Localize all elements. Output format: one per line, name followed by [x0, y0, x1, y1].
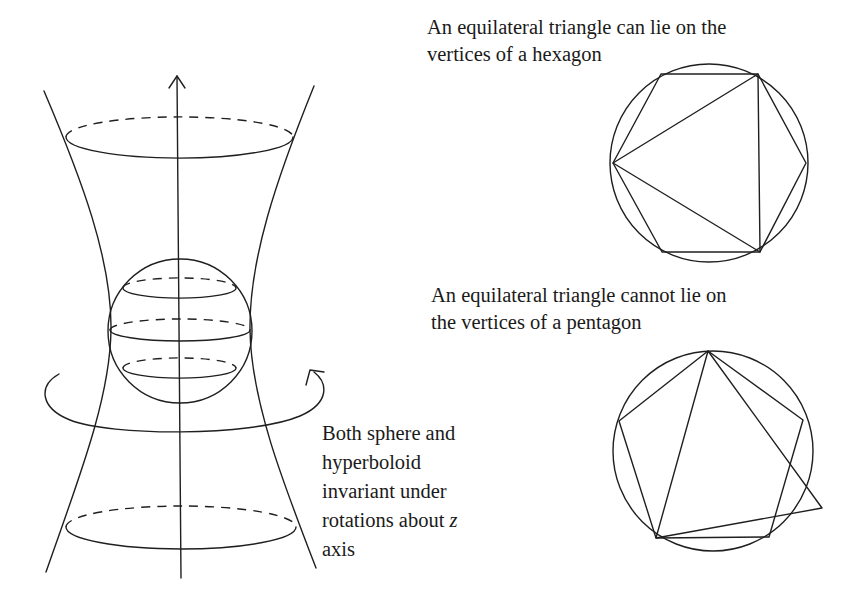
hyperboloid-caption: Both sphere and hyperboloid invariant un… — [322, 419, 458, 564]
z-axis-arrow-icon — [169, 76, 185, 578]
equilateral-triangle — [613, 74, 760, 252]
hexagon-figure — [610, 64, 808, 262]
caption-line: An equilateral triangle cannot lie on — [431, 282, 726, 309]
top-circle — [66, 117, 293, 158]
caption-line: the vertices of a pentagon — [431, 309, 726, 336]
circumcircle — [610, 64, 808, 262]
caption-line: hyperboloid — [322, 448, 458, 477]
circumcircle — [613, 351, 813, 551]
hyperboloid-left-profile — [44, 91, 111, 572]
hyperboloid-right-profile — [250, 86, 316, 568]
pentagon-figure — [613, 351, 822, 551]
equilateral-triangle — [656, 351, 822, 538]
caption-line: invariant under — [322, 477, 458, 506]
caption-line-with-variable: rotations about z — [322, 506, 458, 535]
caption-line: axis — [322, 535, 458, 564]
pentagon-caption: An equilateral triangle cannot lie on th… — [431, 282, 726, 336]
z-variable: z — [450, 509, 458, 531]
caption-line: An equilateral triangle can lie on the — [427, 14, 726, 41]
caption-line: vertices of a hexagon — [427, 41, 726, 68]
rotation-arrow-icon — [45, 370, 324, 432]
hexagon — [613, 74, 806, 252]
caption-text: rotations about — [322, 509, 450, 531]
caption-line: Both sphere and — [322, 419, 458, 448]
hyperboloid-figure — [44, 76, 324, 578]
hexagon-caption: An equilateral triangle can lie on the v… — [427, 14, 726, 68]
